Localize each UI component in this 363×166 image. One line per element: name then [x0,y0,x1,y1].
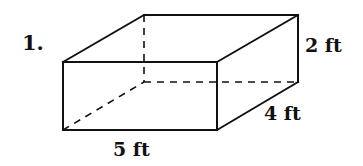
top-right-depth-edge [217,15,298,62]
prism-drawing [0,0,363,166]
top-left-depth-edge [63,15,144,62]
height-label: 2 ft [305,36,342,55]
problem-number: 1. [22,32,44,53]
length-label: 5 ft [113,140,150,159]
width-label: 4 ft [264,104,301,123]
rectangular-prism-figure: 1. 2 ft 5 ft 4 ft [0,0,363,166]
hidden-bottom-left-depth-edge [63,82,144,130]
